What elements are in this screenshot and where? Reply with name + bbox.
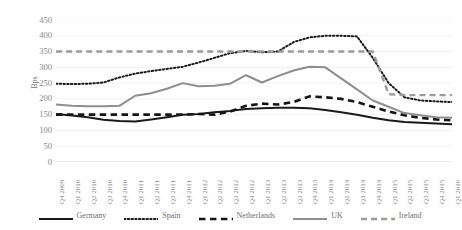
gridlines xyxy=(56,20,452,162)
legend-label: Spain xyxy=(162,211,180,220)
x-tick-label: Q4 2012 xyxy=(249,180,256,204)
legend-swatch-icon xyxy=(199,210,233,220)
legend-label: Ireland xyxy=(399,211,422,220)
series-line-spain xyxy=(56,36,452,102)
legend-label: Netherlands xyxy=(237,211,276,220)
legend-swatch-icon xyxy=(293,210,327,220)
plot-area xyxy=(56,20,452,162)
x-tick-label: Q1 2016 xyxy=(455,180,462,204)
y-tick-label: 400 xyxy=(39,31,52,40)
chart-legend: GermanySpainNetherlandsUKIreland xyxy=(0,206,460,224)
x-tick-label: Q1 2011 xyxy=(138,180,145,204)
x-tick-label: Q2 2013 xyxy=(281,180,288,204)
y-axis-ticks: 450400350300250200150100500 xyxy=(26,0,52,230)
legend-label: UK xyxy=(331,211,343,220)
x-tick-label: Q1 2014 xyxy=(328,180,335,204)
x-tick-label: Q2 2015 xyxy=(407,180,414,204)
x-tick-label: Q3 2012 xyxy=(233,180,240,204)
x-tick-label: Q1 2012 xyxy=(202,180,209,204)
x-tick-label: Q4 2009 xyxy=(59,180,66,204)
y-tick-label: 100 xyxy=(39,126,52,135)
series-canvas xyxy=(56,20,452,162)
x-tick-label: Q4 2013 xyxy=(312,180,319,204)
x-tick-label: Q2 2010 xyxy=(91,180,98,204)
legend-item-germany[interactable]: Germany xyxy=(39,210,107,220)
x-tick-label: Q1 2010 xyxy=(75,180,82,204)
y-tick-label: 300 xyxy=(39,63,52,72)
x-tick-label: Q4 2011 xyxy=(186,180,193,204)
legend-item-spain[interactable]: Spain xyxy=(124,210,180,220)
y-tick-label: 0 xyxy=(48,158,52,167)
legend-item-netherlands[interactable]: Netherlands xyxy=(199,210,276,220)
legend-item-ireland[interactable]: Ireland xyxy=(361,210,422,220)
x-tick-label: Q1 2013 xyxy=(265,180,272,204)
legend-swatch-icon xyxy=(124,210,158,220)
legend-item-uk[interactable]: UK xyxy=(293,210,343,220)
x-tick-label: Q3 2011 xyxy=(170,180,177,204)
y-tick-label: 200 xyxy=(39,94,52,103)
x-axis-ticks: Q4 2009Q1 2010Q2 2010Q3 2010Q4 2010Q1 20… xyxy=(56,164,452,208)
x-tick-label: Q2 2011 xyxy=(154,180,161,204)
x-tick-label: Q4 2010 xyxy=(122,180,129,204)
x-tick-label: Q3 2013 xyxy=(297,180,304,204)
series-line-ireland xyxy=(56,52,452,96)
x-tick-label: Q4 2014 xyxy=(376,180,383,204)
legend-swatch-icon xyxy=(361,210,395,220)
legend-label: Germany xyxy=(77,211,107,220)
legend-swatch-icon xyxy=(39,210,73,220)
y-tick-label: 450 xyxy=(39,16,52,25)
y-tick-label: 150 xyxy=(39,110,52,119)
x-tick-label: Q3 2014 xyxy=(360,180,367,204)
x-tick-label: Q3 2010 xyxy=(107,180,114,204)
x-tick-label: Q2 2012 xyxy=(217,180,224,204)
y-tick-label: 350 xyxy=(39,47,52,56)
x-tick-label: Q1 2015 xyxy=(392,180,399,204)
y-tick-label: 50 xyxy=(44,142,53,151)
x-tick-label: Q3 2015 xyxy=(423,180,430,204)
series-line-uk xyxy=(56,67,452,118)
x-tick-label: Q2 2014 xyxy=(344,180,351,204)
x-tick-label: Q4 2015 xyxy=(439,180,446,204)
y-tick-label: 250 xyxy=(39,79,52,88)
